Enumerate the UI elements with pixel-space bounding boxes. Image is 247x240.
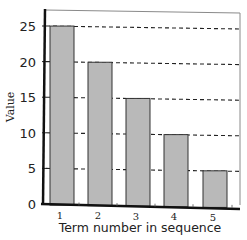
bar-term-1 bbox=[50, 26, 74, 205]
x-axis-label: Term number in sequence bbox=[58, 220, 222, 235]
y-tick-label: 15 bbox=[19, 90, 36, 105]
y-axis-label: Value bbox=[4, 92, 17, 124]
bars bbox=[50, 26, 227, 207]
bar-chart: 0510152025 12345 Term number in sequence… bbox=[0, 0, 247, 240]
bar-term-4 bbox=[164, 135, 188, 207]
y-tick-label: 10 bbox=[19, 126, 36, 141]
y-axis bbox=[43, 9, 45, 205]
bar-term-2 bbox=[88, 62, 112, 205]
bar-term-3 bbox=[126, 98, 150, 206]
y-tick-label: 20 bbox=[19, 55, 36, 70]
plot-frame-top bbox=[45, 10, 240, 13]
y-tick-labels: 0510152025 bbox=[19, 19, 36, 212]
y-tick-label: 0 bbox=[28, 197, 36, 212]
bar-term-5 bbox=[203, 171, 227, 208]
y-tick-label: 25 bbox=[19, 19, 36, 34]
gridline bbox=[46, 26, 240, 29]
y-tick-label: 5 bbox=[28, 161, 36, 176]
gridline bbox=[46, 62, 240, 65]
